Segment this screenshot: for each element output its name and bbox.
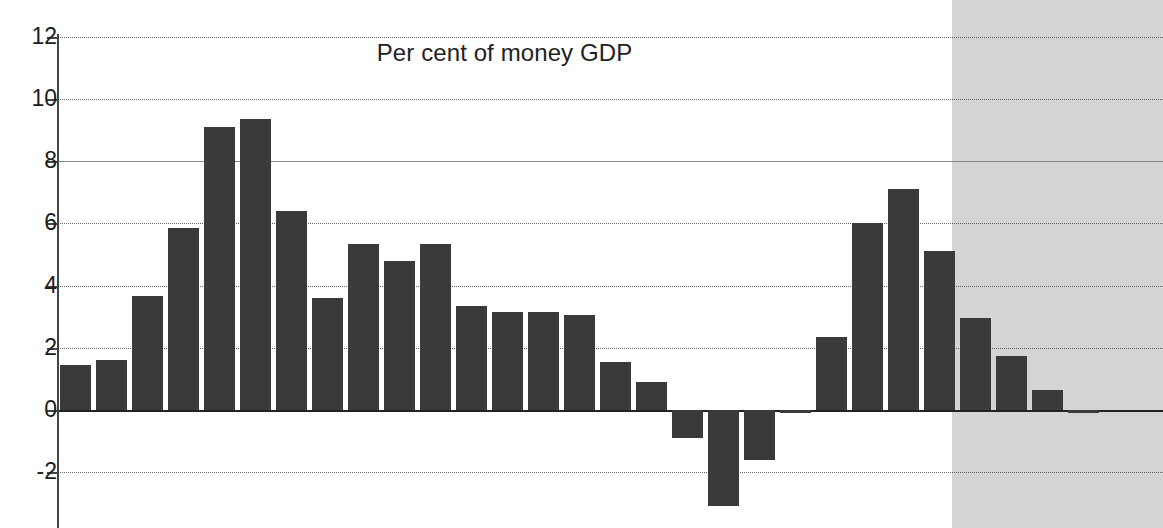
y-axis-line [57,34,59,528]
y-tick-label: 6 [13,211,57,234]
y-tick-label: 4 [13,274,57,297]
zero-line [53,410,1163,412]
bar [1032,390,1063,410]
bar [744,410,775,460]
y-tick-label: 12 [13,25,57,48]
bar [384,261,415,410]
bar [132,296,163,410]
y-tick-label: 8 [13,149,57,172]
chart-title: Per cent of money GDP [57,39,952,67]
bar [564,315,595,410]
bar [312,298,343,410]
bar [348,244,379,410]
bar [240,119,271,410]
y-tick-label: -2 [13,460,57,483]
bar [996,356,1027,410]
bar [276,211,307,410]
y-tick-label: 0 [13,398,57,421]
gridline-10 [57,99,1163,100]
gridline--2 [57,472,1163,473]
bar [708,410,739,506]
bar-chart-figure: 121086420-2 Per cent of money GDP [0,0,1163,528]
bar [924,251,955,410]
bar [420,244,451,410]
y-axis-ticks: 121086420-2 [0,0,57,528]
bar [168,228,199,410]
bar [636,382,667,410]
bar [852,223,883,410]
bar [888,189,919,410]
bar [528,312,559,410]
chart-title-wrap: Per cent of money GDP [57,0,952,80]
forecast-shaded-region [952,0,1163,528]
y-tick-label: 2 [13,336,57,359]
bar [960,318,991,410]
bar [96,360,127,410]
bar [492,312,523,410]
bar [456,306,487,410]
bar [1068,410,1099,413]
bar [600,362,631,410]
bar [780,410,811,413]
bar [60,365,91,410]
bar [816,337,847,410]
bar [672,410,703,438]
y-tick-label: 10 [13,87,57,110]
bar [204,127,235,410]
